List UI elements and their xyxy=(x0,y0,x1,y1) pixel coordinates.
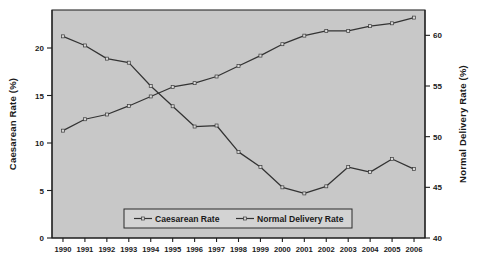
y-tick-label-left: 10 xyxy=(35,139,44,148)
caesarean-rate-marker xyxy=(303,34,306,37)
x-tick-label: 1999 xyxy=(252,245,269,254)
caesarean-rate-marker xyxy=(105,113,108,116)
y-axis-right-title: Normal Delivery Rate (%) xyxy=(457,65,468,183)
caesarean-rate-marker xyxy=(171,85,174,88)
y-tick-label-right: 45 xyxy=(433,183,442,192)
y-tick-label-left: 0 xyxy=(40,234,45,243)
x-tick-label: 1992 xyxy=(98,245,115,254)
normal-delivery-rate-marker xyxy=(193,125,196,128)
chart-figure: 0510152040455055601990199119921993199419… xyxy=(0,0,478,270)
normal-delivery-rate-marker xyxy=(61,35,64,38)
x-tick-label: 1993 xyxy=(120,245,137,254)
legend-marker xyxy=(244,217,247,220)
plot-texture xyxy=(52,10,425,238)
normal-delivery-rate-marker xyxy=(127,61,130,64)
caesarean-rate-marker xyxy=(369,25,372,28)
x-tick-label: 1994 xyxy=(142,245,160,254)
y-tick-label-left: 5 xyxy=(40,187,45,196)
x-tick-label: 1996 xyxy=(186,245,203,254)
y-tick-label-right: 60 xyxy=(433,31,442,40)
x-tick-label: 1991 xyxy=(76,245,94,254)
y-axis-left-title: Caesarean Rate (%) xyxy=(7,78,18,170)
x-tick-label: 1998 xyxy=(230,245,247,254)
caesarean-rate-marker xyxy=(281,43,284,46)
x-tick-label: 2003 xyxy=(340,245,357,254)
y-tick-label-right: 40 xyxy=(433,234,442,243)
normal-delivery-rate-marker xyxy=(391,157,394,160)
normal-delivery-rate-marker xyxy=(215,124,218,127)
normal-delivery-rate-marker xyxy=(347,166,350,169)
legend-marker xyxy=(142,217,145,220)
x-tick-label: 2001 xyxy=(296,245,314,254)
normal-delivery-rate-marker xyxy=(325,185,328,188)
x-tick-label: 1995 xyxy=(164,245,182,254)
normal-delivery-rate-marker xyxy=(149,85,152,88)
caesarean-rate-marker xyxy=(259,54,262,57)
x-tick-label: 1990 xyxy=(55,245,72,254)
normal-delivery-rate-marker xyxy=(171,105,174,108)
caesarean-rate-marker xyxy=(83,118,86,121)
normal-delivery-rate-marker xyxy=(413,168,416,171)
y-tick-label-left: 20 xyxy=(35,44,44,53)
caesarean-rate-marker xyxy=(237,65,240,68)
normal-delivery-rate-marker xyxy=(105,57,108,60)
normal-delivery-rate-marker xyxy=(369,171,372,174)
caesarean-rate-marker xyxy=(61,129,64,132)
x-tick-label: 2000 xyxy=(274,245,291,254)
caesarean-rate-marker xyxy=(391,22,394,25)
caesarean-rate-marker xyxy=(127,104,130,107)
caesarean-rate-marker xyxy=(215,75,218,78)
normal-delivery-rate-marker xyxy=(237,150,240,153)
x-tick-label: 2005 xyxy=(384,245,402,254)
caesarean-rate-marker xyxy=(193,82,196,85)
y-tick-label-right: 55 xyxy=(433,82,442,91)
caesarean-rate-marker xyxy=(413,16,416,19)
caesarean-rate-marker xyxy=(347,29,350,32)
caesarean-rate-marker xyxy=(149,95,152,98)
y-tick-label-left: 15 xyxy=(35,92,44,101)
x-tick-label: 2004 xyxy=(362,245,380,254)
dual-axis-line-chart: 0510152040455055601990199119921993199419… xyxy=(0,0,478,270)
y-tick-label-right: 50 xyxy=(433,133,442,142)
legend-label: Caesarean Rate xyxy=(155,214,220,224)
x-tick-label: 1997 xyxy=(208,245,225,254)
legend-label: Normal Delivery Rate xyxy=(257,214,344,224)
normal-delivery-rate-marker xyxy=(303,192,306,195)
normal-delivery-rate-marker xyxy=(83,44,86,47)
caesarean-rate-marker xyxy=(325,29,328,32)
chart-legend: Caesarean RateNormal Delivery Rate xyxy=(124,209,352,228)
x-tick-label: 2006 xyxy=(406,245,423,254)
normal-delivery-rate-marker xyxy=(259,166,262,169)
normal-delivery-rate-marker xyxy=(281,186,284,189)
x-tick-label: 2002 xyxy=(318,245,335,254)
